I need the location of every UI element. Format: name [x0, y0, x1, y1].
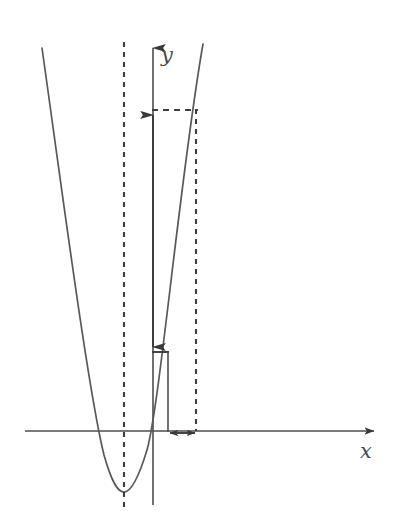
parabola-curve	[42, 44, 203, 492]
math-figure: x y	[0, 0, 411, 530]
y-axis-label: y	[160, 43, 174, 67]
figure-canvas: x y	[0, 0, 411, 530]
x-axis-label: x	[360, 439, 372, 463]
